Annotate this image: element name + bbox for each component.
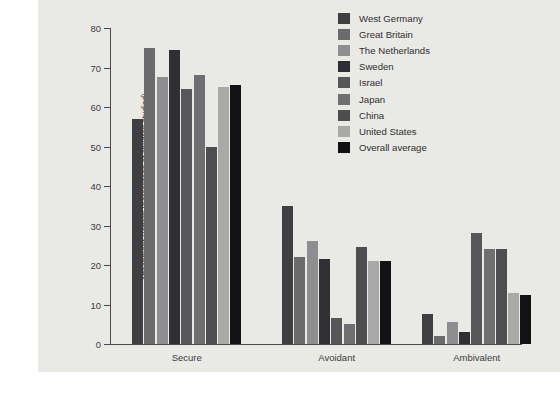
legend-item: Overall average [338,140,508,156]
bar [496,249,507,344]
bar [294,257,305,344]
x-axis-line [110,344,522,345]
legend-label: West Germany [359,13,423,24]
bar [471,233,482,344]
y-tick-label: 80 [90,23,101,34]
bar [169,50,180,344]
y-tick-label: 20 [90,260,101,271]
y-tick-mark [104,226,110,227]
bar [356,247,367,344]
bar [459,332,470,344]
y-tick-label: 0 [96,339,101,350]
bar [344,324,355,344]
bar [434,336,445,344]
legend-label: Sweden [359,61,394,72]
bar [422,314,433,344]
bar [307,241,318,344]
bar [194,75,205,344]
y-tick-label: 30 [90,220,101,231]
bar [282,206,293,344]
y-tick-mark [104,28,110,29]
legend-swatch [338,94,350,105]
y-tick-label: 40 [90,181,101,192]
legend-item: The Netherlands [338,42,508,58]
legend-swatch [338,142,350,153]
bar [132,119,143,344]
legend-item: West Germany [338,10,508,26]
legend-label: China [359,110,384,121]
legend-item: Japan [338,91,508,107]
y-tick-mark [104,305,110,306]
legend-item: China [338,107,508,123]
legend-swatch [338,77,350,88]
legend-label: Japan [359,94,385,105]
bar [218,87,229,344]
category-label: Ambivalent [453,352,500,363]
bar [157,77,168,344]
legend-swatch [338,126,350,137]
y-tick-label: 60 [90,102,101,113]
y-tick-mark [104,147,110,148]
bar [230,85,241,344]
legend-swatch [338,45,350,56]
y-tick-mark [104,68,110,69]
legend-item: United States [338,123,508,139]
legend-swatch [338,13,350,24]
figure-panel: Attachment Pattern (percentage of childr… [38,0,560,372]
legend-label: Great Britain [359,29,413,40]
bar [508,293,519,344]
legend-item: Sweden [338,59,508,75]
bar [181,89,192,344]
bar [368,261,379,344]
bar [206,147,217,345]
legend: West GermanyGreat BritainThe Netherlands… [338,10,508,156]
legend-label: Israel [359,77,382,88]
y-axis-line [110,28,111,345]
bar [144,48,155,344]
legend-label: The Netherlands [359,45,430,56]
bar-group [132,28,241,344]
bar [520,295,531,344]
category-label: Secure [172,352,202,363]
y-tick-mark [104,265,110,266]
y-tick-label: 50 [90,141,101,152]
bar [447,322,458,344]
legend-item: Great Britain [338,26,508,42]
legend-label: United States [359,126,417,137]
bar [484,249,495,344]
bar [380,261,391,344]
y-tick-label: 70 [90,62,101,73]
y-tick-mark [104,107,110,108]
bar [319,259,330,344]
legend-item: Israel [338,75,508,91]
category-label: Avoidant [318,352,355,363]
legend-swatch [338,110,350,121]
y-tick-mark [104,344,110,345]
legend-swatch [338,29,350,40]
legend-swatch [338,61,350,72]
legend-label: Overall average [359,142,427,153]
y-tick-mark [104,186,110,187]
bar [331,318,342,344]
y-tick-label: 10 [90,299,101,310]
